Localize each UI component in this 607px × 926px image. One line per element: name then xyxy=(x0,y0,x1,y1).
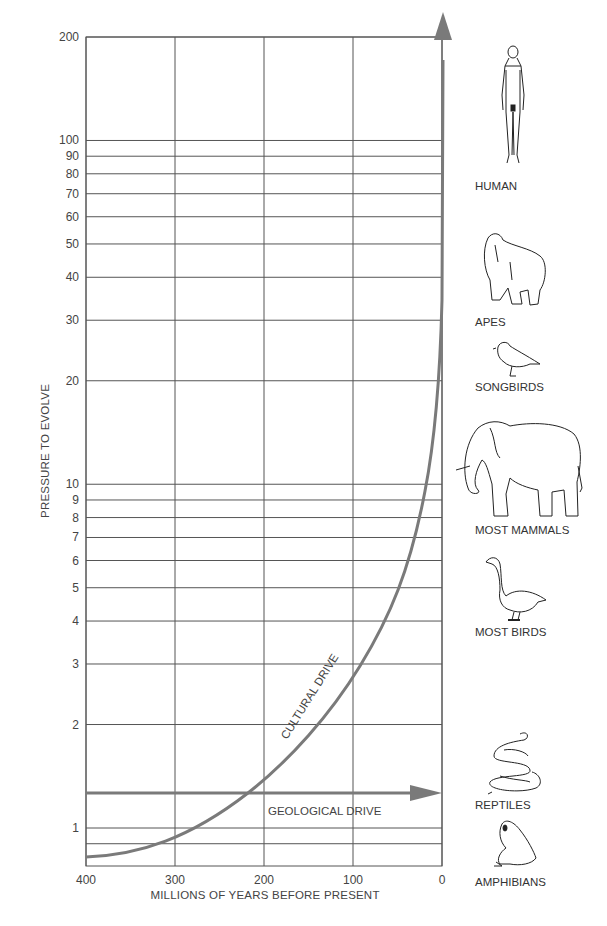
y-tick-label: 80 xyxy=(66,167,80,181)
y-tick-label: 200 xyxy=(59,30,79,44)
grid xyxy=(86,37,442,866)
y-axis-title: PRESSURE TO EVOLVE xyxy=(39,384,51,518)
arrow-right-icon xyxy=(410,785,442,801)
y-tick-label: 8 xyxy=(72,511,79,525)
y-tick-label: 9 xyxy=(72,493,79,507)
animal-legend: HUMAN APES SONGBIRDS MOST MAMMALS MOST B… xyxy=(456,46,582,888)
cultural-drive-label: CULTURAL DRIVE xyxy=(279,652,341,742)
chart: 123456789102030405060708090100200 400300… xyxy=(0,0,607,926)
elephant-icon xyxy=(456,422,582,516)
frog-icon xyxy=(494,821,536,866)
y-tick-label: 20 xyxy=(66,374,80,388)
label-most-mammals: MOST MAMMALS xyxy=(475,524,570,536)
arrow-up-icon xyxy=(434,12,452,40)
y-tick-label: 6 xyxy=(72,554,79,568)
label-amphibians: AMPHIBIANS xyxy=(475,876,546,888)
y-tick-label: 70 xyxy=(66,187,80,201)
y-tick-label: 3 xyxy=(72,657,79,671)
x-tick-label: 300 xyxy=(165,873,185,887)
y-axis-ticks: 123456789102030405060708090100200 xyxy=(59,30,79,835)
y-tick-label: 5 xyxy=(72,581,79,595)
y-tick-label: 7 xyxy=(72,530,79,544)
label-most-birds: MOST BIRDS xyxy=(475,626,547,638)
x-tick-label: 400 xyxy=(76,873,96,887)
songbird-icon xyxy=(493,342,540,376)
x-tick-label: 100 xyxy=(343,873,363,887)
x-axis-title: MILLIONS OF YEARS BEFORE PRESENT xyxy=(150,889,379,901)
x-tick-label: 200 xyxy=(254,873,274,887)
y-tick-label: 100 xyxy=(59,133,79,147)
x-axis-ticks: 4003002001000 xyxy=(76,873,446,887)
y-tick-label: 30 xyxy=(66,313,80,327)
x-tick-label: 0 xyxy=(439,873,446,887)
label-reptiles: REPTILES xyxy=(475,799,531,811)
gorilla-icon xyxy=(484,234,545,305)
label-songbirds: SONGBIRDS xyxy=(475,381,544,393)
y-tick-label: 4 xyxy=(72,614,79,628)
label-human: HUMAN xyxy=(475,180,517,192)
label-apes: APES xyxy=(475,316,506,328)
human-figure-icon xyxy=(502,46,524,163)
swan-icon xyxy=(486,558,546,620)
y-tick-label: 60 xyxy=(66,210,80,224)
y-tick-label: 90 xyxy=(66,149,80,163)
snake-icon xyxy=(488,733,540,794)
geological-drive-label: GEOLOGICAL DRIVE xyxy=(268,805,382,817)
y-tick-label: 10 xyxy=(66,477,80,491)
y-tick-label: 40 xyxy=(66,270,80,284)
cultural-drive-series xyxy=(86,12,452,857)
y-tick-label: 1 xyxy=(72,821,79,835)
y-tick-label: 50 xyxy=(66,237,80,251)
y-tick-label: 2 xyxy=(72,718,79,732)
